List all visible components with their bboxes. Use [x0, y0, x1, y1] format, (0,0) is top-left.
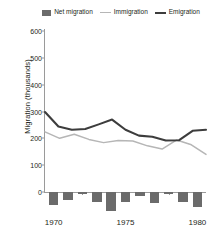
net-migration-bars: [45, 192, 206, 246]
emigration-line-swatch-icon: [155, 12, 166, 14]
y-tick-label: 300: [30, 108, 42, 115]
y-tick-label: 600: [30, 28, 42, 35]
net-migration-bar: [106, 192, 116, 211]
legend-item-net-migration: Net migration: [42, 9, 93, 16]
net-migration-bar: [164, 192, 174, 194]
y-tick-label: 400: [30, 81, 42, 88]
immigration-line-swatch-icon: [100, 12, 111, 13]
net-migration-bar: [178, 192, 188, 201]
net-migration-bar: [150, 192, 160, 203]
plot-area: 0100200300400500600 197019751980: [45, 31, 206, 192]
net-migration-bar: [63, 192, 73, 200]
net-migration-swatch-icon: [42, 10, 51, 16]
net-migration-bar: [135, 192, 145, 196]
y-tick-label: 500: [30, 54, 42, 61]
line-series-immigration: [45, 132, 206, 155]
net-migration-bar: [193, 192, 203, 207]
legend-label-emigration: Emigration: [169, 9, 200, 16]
legend-label-immigration: Immigration: [114, 9, 148, 16]
y-tick-label: 100: [30, 162, 42, 169]
migration-chart: Net migration Immigration Emigration Mig…: [0, 0, 209, 246]
net-migration-bar: [92, 192, 102, 201]
legend-item-immigration: Immigration: [100, 9, 148, 16]
legend-label-net-migration: Net migration: [54, 9, 93, 16]
y-tick-label: 200: [30, 135, 42, 142]
net-migration-bar: [121, 192, 131, 202]
line-series-group: [45, 31, 206, 192]
chart-legend: Net migration Immigration Emigration: [36, 6, 206, 19]
net-migration-bar: [78, 192, 88, 194]
net-migration-bar: [49, 192, 59, 205]
legend-item-emigration: Emigration: [155, 9, 200, 16]
